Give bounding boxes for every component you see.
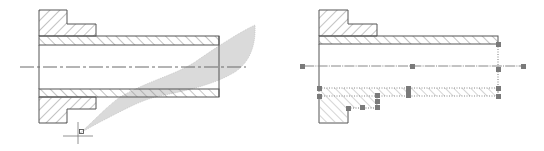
grip-handle[interactable] [375,93,380,98]
left-panel [20,10,255,144]
top-tube-wall [39,36,219,45]
grip-handle[interactable] [360,105,365,110]
top-tube-wall [319,36,498,44]
grip-handle[interactable] [346,106,351,111]
grip-handle[interactable] [496,86,501,91]
drawing-canvas [0,0,544,151]
grip-handle[interactable] [300,64,305,69]
grip-handle[interactable] [317,86,322,91]
grip-handle[interactable] [496,94,501,99]
grip-handle[interactable] [496,67,501,72]
bottom-flange [39,97,96,123]
right-panel [300,10,526,123]
grip-handle[interactable] [521,64,526,69]
grip-handle[interactable] [317,94,322,99]
top-flange [319,10,377,36]
grip-handle[interactable] [375,99,380,104]
bottom-tube-wall [39,89,219,97]
top-flange [39,10,96,36]
crosshair-cursor-icon [63,122,93,144]
grip-handle[interactable] [496,42,501,47]
grip-handle[interactable] [410,64,415,69]
grip-handle[interactable] [375,105,380,110]
grip-handle[interactable] [406,93,411,98]
